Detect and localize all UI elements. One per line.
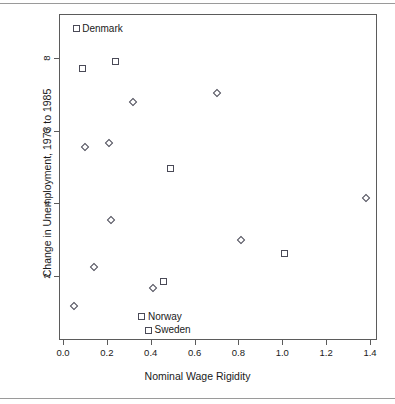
x-axis-label: Nominal Wage Rigidity <box>0 370 395 382</box>
plot-frame <box>59 14 377 340</box>
x-axis-tick <box>326 340 327 345</box>
x-axis-tick <box>151 340 152 345</box>
bottom-divider-rule <box>0 398 395 399</box>
x-axis-tick-label: 0.8 <box>232 347 245 358</box>
x-axis-tick <box>107 340 108 345</box>
x-axis-tick <box>282 340 283 345</box>
x-axis-tick-label: 1.2 <box>320 347 333 358</box>
x-axis-tick-label: 0.4 <box>144 347 157 358</box>
x-axis-tick-label: 0.6 <box>188 347 201 358</box>
x-axis-tick-label: 1.4 <box>363 347 376 358</box>
x-axis-tick <box>238 340 239 345</box>
x-axis-tick <box>63 340 64 345</box>
x-axis-tick <box>370 340 371 345</box>
x-axis-tick-label: 1.0 <box>276 347 289 358</box>
scatter-plot-figure: 0.00.20.40.60.81.01.21.42468DenmarkNorwa… <box>0 0 395 404</box>
top-divider-rule <box>0 3 395 4</box>
y-axis-label: Change in Unemployment, 1973 to 1985 <box>41 53 53 313</box>
x-axis-tick <box>195 340 196 345</box>
x-axis-tick-label: 0.0 <box>56 347 69 358</box>
x-axis-tick-label: 0.2 <box>100 347 113 358</box>
